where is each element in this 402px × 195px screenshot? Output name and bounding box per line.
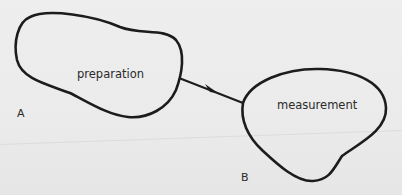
measurement-blob — [242, 69, 386, 181]
point-label-b: B — [241, 171, 249, 184]
point-label-a: A — [17, 107, 25, 120]
preparation-label: preparation — [77, 67, 144, 81]
measurement-label: measurement — [277, 98, 357, 112]
preparation-blob — [16, 13, 182, 117]
diagram-canvas: preparation measurement A B — [0, 0, 402, 195]
